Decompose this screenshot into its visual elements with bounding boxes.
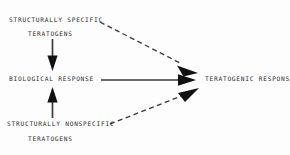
arrow-specific-to-biological	[47, 39, 57, 71]
node-teratogenic-response: TERATOGENIC RESPONSE	[205, 76, 290, 82]
arrow-shaft-dashed-down-right	[100, 22, 182, 64]
arrow-head-dashed-down-right	[177, 66, 198, 77]
node-teratogens-top: TERATOGENS	[28, 31, 73, 37]
arrow-head-dashed-up-right	[178, 88, 199, 102]
arrow-biological-to-teratogenic	[101, 74, 196, 86]
arrow-specific-to-teratogenic-dashed	[100, 22, 198, 77]
diagram-canvas: STRUCTURALLY SPECIFIC TERATOGENS BIOLOGI…	[0, 0, 290, 155]
arrow-nonspecific-to-teratogenic-dashed	[110, 88, 199, 124]
node-teratogens-bottom: TERATOGENS	[28, 136, 73, 142]
node-structurally-nonspecific: STRUCTURALLY NONSPECIFIC	[7, 121, 114, 127]
node-structurally-specific: STRUCTURALLY SPECIFIC	[9, 17, 103, 23]
arrow-nonspecific-to-biological	[47, 87, 57, 118]
arrow-head-down	[47, 56, 57, 72]
node-biological-response: BIOLOGICAL RESPONSE	[9, 76, 94, 82]
arrow-shaft-dashed-up-right	[110, 95, 184, 124]
arrow-head-up	[47, 87, 57, 103]
arrow-head-right	[178, 74, 196, 86]
